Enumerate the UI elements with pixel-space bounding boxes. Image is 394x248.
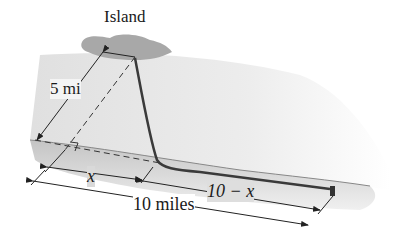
- distance-label: 5 mi: [50, 79, 81, 99]
- island-label: Island: [104, 7, 146, 27]
- diagram-graphics: [0, 0, 394, 248]
- island-cable-diagram: Island 5 mi x 10 − x 10 miles: [0, 0, 394, 248]
- x-label: x: [87, 166, 95, 187]
- power-station: [330, 186, 335, 196]
- total-label: 10 miles: [133, 194, 195, 215]
- remaining-label: 10 − x: [207, 181, 254, 202]
